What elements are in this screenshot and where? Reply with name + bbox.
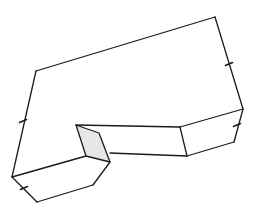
edge-right-bottom <box>187 142 234 156</box>
shaded-face <box>76 125 110 162</box>
solid-block-diagram <box>0 0 255 212</box>
edge-left-front-top <box>12 156 86 177</box>
tick-right-lower-icon <box>234 124 241 127</box>
edge-left-bottom-c <box>93 162 110 185</box>
edge-right-upper <box>215 17 243 109</box>
edge-top-back <box>36 17 215 71</box>
edge-left-bottom-a <box>12 177 37 202</box>
tick-left-back-icon <box>20 120 27 123</box>
shaded-face-polygon <box>76 125 110 162</box>
edge-right-front-top <box>180 109 243 127</box>
edges <box>12 17 243 202</box>
edge-inner-top <box>76 125 180 127</box>
edge-left-back <box>12 71 36 177</box>
edge-inner-bottom <box>110 153 187 156</box>
edge-inner-vertical <box>180 127 187 156</box>
edge-left-bottom-b <box>37 185 93 202</box>
